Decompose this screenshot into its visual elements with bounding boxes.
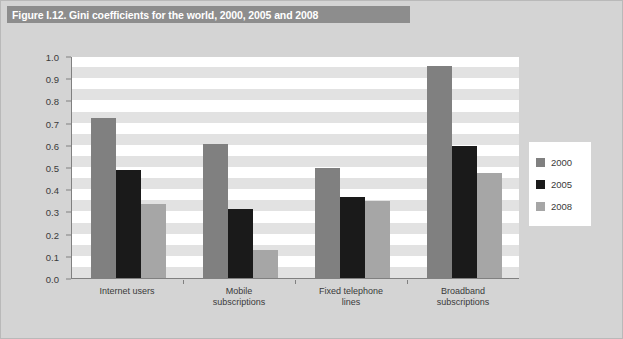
bar-2008 bbox=[253, 250, 278, 278]
y-axis-tick-label: 0.7 bbox=[46, 118, 59, 129]
x-axis-category-line2: subscriptions bbox=[183, 297, 295, 308]
y-axis-tick-label: 0.0 bbox=[46, 274, 59, 285]
legend-label: 2000 bbox=[551, 157, 572, 168]
legend-swatch-icon bbox=[536, 202, 545, 211]
x-axis-category-line1: Internet users bbox=[71, 286, 183, 297]
figure-title: Figure I.12. Gini coefficients for the w… bbox=[12, 9, 318, 21]
y-axis-tick-label: 0.8 bbox=[46, 96, 59, 107]
x-axis-category-label: Mobilesubscriptions bbox=[183, 286, 295, 308]
bar-2008 bbox=[477, 173, 502, 278]
bar-2000 bbox=[203, 144, 228, 278]
legend-item-2005[interactable]: 2005 bbox=[536, 173, 585, 195]
legend-label: 2008 bbox=[551, 201, 572, 212]
x-axis-tick-mark bbox=[407, 280, 408, 284]
plot-area bbox=[71, 57, 519, 279]
y-axis-tick-label: 0.3 bbox=[46, 207, 59, 218]
x-axis-category-label: Broadbandsubscriptions bbox=[407, 286, 519, 308]
bar-group bbox=[184, 57, 296, 278]
y-axis-tick-label: 0.5 bbox=[46, 163, 59, 174]
bar-2008 bbox=[141, 204, 166, 278]
bar-2000 bbox=[91, 118, 116, 278]
legend-label: 2005 bbox=[551, 179, 572, 190]
y-axis-tick-label: 0.2 bbox=[46, 229, 59, 240]
bar-2000 bbox=[427, 66, 452, 278]
bar-2000 bbox=[315, 168, 340, 278]
bar-2005 bbox=[116, 170, 141, 278]
x-axis-category-line2: subscriptions bbox=[407, 297, 519, 308]
chart-legend: 200020052008 bbox=[529, 142, 591, 226]
bar-group bbox=[72, 57, 184, 278]
x-axis-category-label: Internet users bbox=[71, 286, 183, 297]
y-axis-tick-label: 0.9 bbox=[46, 74, 59, 85]
x-axis-tick-mark bbox=[183, 280, 184, 284]
x-axis-category-label: Fixed telephonelines bbox=[295, 286, 407, 308]
x-axis-tick-mark bbox=[295, 280, 296, 284]
bar-group bbox=[408, 57, 520, 278]
x-axis-category-line1: Mobile bbox=[183, 286, 295, 297]
x-axis-category-line1: Broadband bbox=[407, 286, 519, 297]
chart-area: 0.00.10.20.30.40.50.60.70.80.91.0 Intern… bbox=[7, 27, 617, 327]
y-axis-tick-label: 0.6 bbox=[46, 140, 59, 151]
figure-title-bar: Figure I.12. Gini coefficients for the w… bbox=[7, 6, 410, 23]
x-axis-category-line1: Fixed telephone bbox=[295, 286, 407, 297]
y-axis-tick-label: 0.1 bbox=[46, 251, 59, 262]
y-axis-tick-label: 0.4 bbox=[46, 185, 59, 196]
bar-2005 bbox=[228, 209, 253, 278]
bar-group bbox=[296, 57, 408, 278]
bar-2005 bbox=[340, 197, 365, 278]
x-axis: Internet usersMobilesubscriptionsFixed t… bbox=[71, 280, 519, 320]
bars-layer bbox=[72, 57, 519, 278]
bar-2005 bbox=[452, 146, 477, 278]
x-axis-category-line2: lines bbox=[295, 297, 407, 308]
legend-swatch-icon bbox=[536, 180, 545, 189]
legend-item-2000[interactable]: 2000 bbox=[536, 151, 585, 173]
legend-item-2008[interactable]: 2008 bbox=[536, 195, 585, 217]
y-axis: 0.00.10.20.30.40.50.60.70.80.91.0 bbox=[7, 57, 71, 279]
legend-swatch-icon bbox=[536, 158, 545, 167]
figure-container: Figure I.12. Gini coefficients for the w… bbox=[0, 0, 623, 339]
y-axis-tick-label: 1.0 bbox=[46, 52, 59, 63]
bar-2008 bbox=[365, 201, 390, 278]
